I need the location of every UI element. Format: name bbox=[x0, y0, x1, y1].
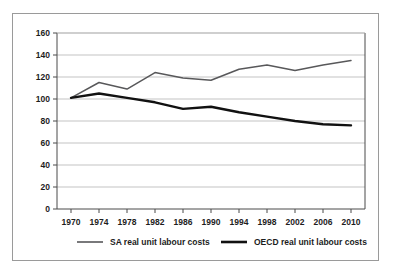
y-tick-label-100: 100 bbox=[36, 94, 50, 104]
x-tick-label-1986: 1986 bbox=[174, 217, 193, 227]
x-tick-label-1970: 1970 bbox=[62, 217, 81, 227]
x-tick-label-1974: 1974 bbox=[90, 217, 109, 227]
y-axis-ticks: 020406080100120140160 bbox=[36, 28, 57, 214]
x-tick-label-1982: 1982 bbox=[146, 217, 165, 227]
x-tick-label-2006: 2006 bbox=[314, 217, 333, 227]
series-line-sa bbox=[71, 61, 351, 98]
x-tick-label-1998: 1998 bbox=[258, 217, 277, 227]
y-tick-label-20: 20 bbox=[41, 182, 51, 192]
y-tick-label-120: 120 bbox=[36, 72, 50, 82]
screenshot-page: 020406080100120140160 197019741978198219… bbox=[0, 0, 395, 278]
y-tick-label-40: 40 bbox=[41, 160, 51, 170]
x-tick-label-2010: 2010 bbox=[342, 217, 361, 227]
data-series bbox=[71, 61, 351, 126]
y-tick-label-160: 160 bbox=[36, 28, 50, 38]
legend-label-sa: SA real unit labour costs bbox=[110, 237, 210, 247]
x-tick-label-1990: 1990 bbox=[202, 217, 221, 227]
y-tick-label-80: 80 bbox=[41, 116, 51, 126]
y-tick-label-60: 60 bbox=[41, 138, 51, 148]
y-tick-label-140: 140 bbox=[36, 50, 50, 60]
chart-figure-frame: 020406080100120140160 197019741978198219… bbox=[12, 13, 379, 261]
legend-label-oecd: OECD real unit labour costs bbox=[254, 237, 367, 247]
x-tick-label-1994: 1994 bbox=[230, 217, 249, 227]
chart-plot-area: 020406080100120140160 197019741978198219… bbox=[13, 14, 380, 262]
x-axis-ticks: 1970197419781982198619901994199820022006… bbox=[62, 209, 361, 227]
cut-off-caption-text bbox=[0, 0, 395, 12]
y-tick-label-0: 0 bbox=[45, 204, 50, 214]
line-chart: 020406080100120140160 197019741978198219… bbox=[13, 14, 380, 262]
chart-legend: SA real unit labour costsOECD real unit … bbox=[77, 237, 367, 247]
gridlines bbox=[57, 33, 365, 187]
x-tick-label-2002: 2002 bbox=[286, 217, 305, 227]
x-tick-label-1978: 1978 bbox=[118, 217, 137, 227]
